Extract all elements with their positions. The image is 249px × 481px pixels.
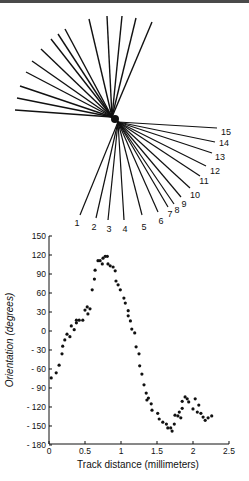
y-tick-label: 120 — [32, 250, 46, 260]
data-point — [112, 265, 115, 268]
fan-line-8 — [118, 122, 174, 204]
y-tick-label: - 90 — [31, 383, 46, 393]
data-point — [202, 416, 205, 419]
y-tick-label: - 60 — [31, 364, 46, 374]
data-point — [178, 411, 181, 414]
data-point — [181, 407, 184, 410]
data-point — [73, 328, 76, 331]
data-point — [86, 312, 89, 315]
data-point — [196, 411, 199, 414]
fan-line-3 — [108, 122, 118, 220]
data-point — [130, 328, 133, 331]
data-points — [50, 255, 214, 433]
data-point — [81, 319, 84, 322]
data-point — [60, 352, 63, 355]
data-point — [50, 376, 53, 379]
fan-line-label: 9 — [181, 199, 186, 209]
data-point — [70, 324, 73, 327]
data-point — [138, 364, 141, 367]
data-point — [161, 421, 164, 424]
data-point — [117, 283, 120, 286]
data-point — [140, 373, 143, 376]
fan-line-4 — [118, 122, 124, 220]
data-point — [83, 309, 86, 312]
data-point — [63, 338, 66, 341]
fan-line-label: 2 — [91, 222, 96, 232]
y-tick-label: 60 — [37, 288, 47, 298]
data-point — [109, 264, 112, 267]
fan-line-label: 4 — [122, 224, 127, 234]
x-tick-label: 2.5 — [223, 446, 235, 456]
fan-line-1 — [80, 122, 118, 215]
data-point — [207, 416, 210, 419]
fan-line-label: 3 — [106, 224, 111, 234]
data-point — [169, 426, 172, 429]
data-point — [114, 269, 117, 272]
data-point — [204, 419, 207, 422]
x-tick-label: 0.5 — [79, 446, 91, 456]
data-point — [129, 319, 132, 322]
fan-line-label: 13 — [215, 152, 225, 162]
data-point — [187, 400, 190, 403]
y-tick-label: 90 — [37, 269, 47, 279]
y-axis-label: Orientation (degrees) — [4, 293, 15, 388]
data-point — [99, 259, 102, 262]
data-point — [55, 371, 58, 374]
data-point — [165, 423, 168, 426]
fan-line-label: 8 — [174, 205, 179, 215]
x-tick-label: 1 — [119, 446, 124, 456]
figure: 123456789101112131415 1501209060300- 30-… — [0, 0, 249, 481]
fan-line-label: 10 — [190, 190, 200, 200]
data-point — [173, 423, 176, 426]
fan-line-label: 12 — [210, 166, 220, 176]
fan-line-label: 11 — [199, 176, 208, 186]
fan-center-hub — [111, 115, 119, 123]
data-point — [150, 402, 153, 405]
data-point — [65, 333, 68, 336]
data-point — [181, 400, 184, 403]
data-point — [142, 383, 145, 386]
data-point — [119, 288, 122, 291]
data-point — [127, 314, 130, 317]
data-point — [114, 279, 117, 282]
x-tick-label: 2 — [191, 446, 196, 456]
y-tick-label: 0 — [41, 326, 46, 336]
data-point — [137, 352, 140, 355]
fan-line-label: 14 — [219, 138, 229, 148]
data-point — [61, 345, 64, 348]
data-point — [176, 414, 179, 417]
fan-line-label: 15 — [221, 127, 231, 137]
data-point — [75, 319, 78, 322]
data-point — [93, 278, 96, 281]
x-tick-label: 1.5 — [151, 446, 163, 456]
fan-line-label: 1 — [74, 218, 79, 228]
data-point — [88, 307, 91, 310]
data-point — [58, 364, 61, 367]
data-point — [191, 407, 194, 410]
data-point — [197, 404, 200, 407]
data-point — [135, 345, 138, 348]
data-point — [158, 417, 161, 420]
data-point — [133, 331, 136, 334]
fan-line-label: 6 — [158, 216, 163, 226]
data-point — [122, 297, 125, 300]
data-point — [145, 392, 148, 395]
fan-line-label: 7 — [167, 209, 172, 219]
fan-line-label: 5 — [141, 222, 146, 232]
data-point — [101, 262, 104, 265]
data-point — [199, 412, 202, 415]
data-point — [147, 397, 150, 400]
data-point — [68, 335, 71, 338]
fan-line-upper — [112, 16, 122, 117]
data-point — [194, 397, 197, 400]
y-tick-label: 150 — [32, 231, 46, 241]
data-point — [124, 302, 127, 305]
data-point — [78, 319, 81, 322]
data-point — [173, 414, 176, 417]
orientation-scatter-plot: 1501209060300- 30- 60- 90- 120- 150- 180… — [4, 231, 235, 470]
y-axis-ticks: 1501209060300- 30- 60- 90- 120- 150- 180 — [27, 231, 52, 450]
y-tick-label: 30 — [37, 307, 47, 317]
data-point — [166, 426, 169, 429]
x-tick-label: 0 — [47, 446, 52, 456]
fan-line-upper — [41, 49, 112, 117]
